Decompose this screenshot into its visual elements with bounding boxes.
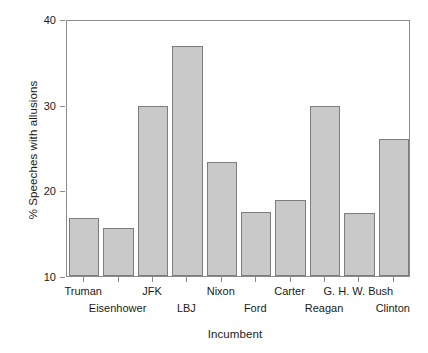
bar-jfk (138, 106, 168, 276)
y-axis-ticks: 10203040 (0, 0, 66, 353)
y-tick-label: 10 (28, 272, 56, 282)
y-tick-mark (60, 106, 65, 107)
y-tick-label-wrap: 20 (28, 186, 56, 196)
x-tick-mark (358, 277, 359, 282)
x-tick-mark (83, 277, 84, 282)
bar-clinton (379, 139, 409, 276)
y-tick-label: 20 (28, 186, 56, 196)
bar-eisenhower (103, 228, 133, 276)
bar-reagan (310, 106, 340, 276)
bar-ford (241, 212, 271, 276)
bar-g-h-w-bush (344, 213, 374, 276)
x-tick-mark (255, 277, 256, 282)
y-tick-label-wrap: 40 (28, 15, 56, 25)
x-axis-title: Incumbent (60, 328, 410, 340)
y-tick-label: 40 (28, 15, 56, 25)
plot-area (66, 20, 410, 277)
x-tick-mark (221, 277, 222, 282)
x-tick-mark (186, 277, 187, 282)
bar-chart-figure: % Speeches with allusions 10203040 Truma… (0, 0, 428, 353)
x-tick-mark (118, 277, 119, 282)
x-tick-mark (152, 277, 153, 282)
x-tick-label: G. H. W. Bush (308, 285, 408, 297)
x-tick-label: Clinton (343, 302, 428, 314)
bar-carter (275, 200, 305, 276)
x-tick-mark (393, 277, 394, 282)
y-tick-mark (60, 191, 65, 192)
x-tick-mark (324, 277, 325, 282)
y-tick-mark (60, 20, 65, 21)
x-tick-mark (290, 277, 291, 282)
y-tick-label-wrap: 30 (28, 101, 56, 111)
y-tick-label-wrap: 10 (28, 272, 56, 282)
bar-truman (69, 218, 99, 276)
y-tick-mark (60, 277, 65, 278)
bar-nixon (207, 162, 237, 276)
y-tick-label: 30 (28, 101, 56, 111)
bar-lbj (172, 46, 202, 276)
